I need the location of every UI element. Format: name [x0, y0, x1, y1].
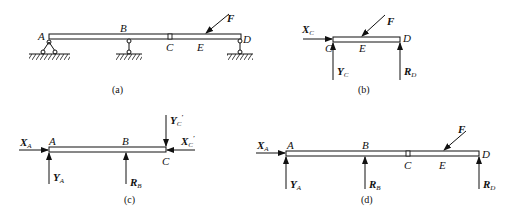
- diagram-canvas: [0, 0, 514, 218]
- force-f-label: F: [227, 13, 234, 24]
- point-e-label: E: [439, 160, 446, 171]
- force-xcp-label: XC′: [181, 135, 195, 149]
- force-f-label: F: [387, 16, 394, 27]
- point-b-label: B: [120, 23, 127, 34]
- force-rd-label: RD: [404, 66, 416, 79]
- point-d-label: D: [243, 34, 251, 45]
- force-xc-label: XC: [302, 24, 314, 37]
- force-xa-label: XA: [257, 140, 269, 153]
- force-ycp-label: YC′: [170, 114, 183, 128]
- point-d-label: D: [403, 33, 411, 44]
- force-f-label: F: [458, 124, 465, 135]
- force-f-arrow-a: [206, 14, 229, 33]
- point-e-label: E: [197, 42, 204, 53]
- force-ya-label: YA: [290, 179, 301, 192]
- point-a-label: A: [287, 140, 294, 151]
- caption-d: (d): [361, 195, 373, 205]
- force-ya-label: YA: [53, 172, 64, 185]
- point-c-label: C: [162, 156, 169, 167]
- pin-support-a-icon: [29, 40, 70, 60]
- caption-c: (c): [124, 195, 135, 205]
- figure-a: [29, 14, 253, 60]
- roller-support-b-icon: [116, 39, 142, 60]
- point-c-label: C: [404, 160, 411, 171]
- point-d-label: D: [482, 149, 490, 160]
- beam-d: [286, 151, 479, 156]
- caption-a: (a): [112, 85, 123, 95]
- hinge-c-d: [406, 151, 410, 156]
- figure-c: [19, 115, 195, 184]
- point-c-label: C: [325, 43, 332, 54]
- beam-a: [49, 34, 241, 39]
- figure-b: [303, 15, 400, 80]
- point-a-label: A: [49, 136, 56, 147]
- point-b-label: B: [122, 136, 129, 147]
- force-xa-label: XA: [20, 137, 32, 150]
- force-rd-label: RD: [483, 179, 495, 192]
- beam-c: [49, 147, 166, 152]
- force-rb-label: RB: [130, 177, 142, 190]
- point-b-label: B: [362, 140, 369, 151]
- point-c-label: C: [166, 42, 173, 53]
- force-yc-label: YC: [337, 66, 348, 79]
- beam-b: [333, 37, 400, 42]
- point-a-label: A: [38, 31, 45, 42]
- hinge-c-a: [168, 34, 172, 39]
- caption-b: (b): [358, 85, 370, 95]
- force-rb-label: RB: [369, 179, 381, 192]
- point-e-label: E: [359, 43, 366, 54]
- force-f-arrow-b: [362, 15, 385, 36]
